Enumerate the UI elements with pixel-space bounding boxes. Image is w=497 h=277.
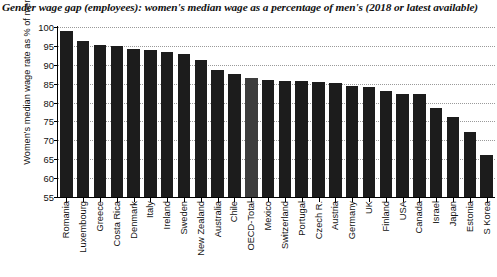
y-tick-label: 55 (44, 192, 54, 203)
x-tick-mark (167, 198, 168, 202)
bar-group[interactable]: Germany (346, 27, 358, 197)
y-tick-label: 75 (44, 116, 54, 127)
x-tick-label: Sweden (179, 201, 189, 235)
y-tick-label: 70 (44, 135, 54, 146)
x-tick-mark (268, 198, 269, 202)
x-tick-label: OECD-Total (246, 201, 256, 251)
bar[interactable] (279, 81, 291, 197)
bar-group[interactable]: Switzerland (279, 27, 291, 197)
x-tick-label: Romania (61, 201, 71, 238)
bar[interactable] (447, 117, 459, 197)
bar-group[interactable]: Australia (211, 27, 223, 197)
y-tick-label: 100 (38, 22, 54, 33)
bar-group[interactable]: New Zealand (195, 27, 207, 197)
x-tick-mark (218, 198, 219, 202)
bar[interactable] (329, 83, 341, 197)
bar[interactable] (380, 91, 392, 197)
x-tick-label: USA (398, 201, 408, 220)
bar[interactable] (262, 80, 274, 197)
x-tick-label: Luxembourg (78, 201, 88, 253)
x-tick-label: Portugal (297, 201, 307, 236)
x-tick-mark (134, 198, 135, 202)
bar[interactable] (413, 94, 425, 197)
bar[interactable] (60, 31, 72, 197)
bar-group[interactable]: USA (396, 27, 408, 197)
bar[interactable] (161, 52, 173, 197)
y-axis-label: Women's median wage rate as % of men's (22, 0, 32, 166)
x-tick-mark (150, 198, 151, 202)
x-tick-label: Germany (347, 201, 357, 239)
x-tick-label: Ireland (162, 201, 172, 229)
plot-area: 556065707580859095100 RomaniaLuxembourgG… (58, 27, 495, 197)
bar-group[interactable]: Chile (228, 27, 240, 197)
bar-series: RomaniaLuxembourgGreeceCosta RicaDenmark… (58, 27, 495, 197)
bar[interactable] (430, 108, 442, 197)
x-tick-mark (352, 198, 353, 202)
x-tick-label: Japan (448, 201, 458, 226)
y-tick-mark (54, 197, 58, 198)
x-tick-mark (436, 198, 437, 202)
bar-group[interactable]: Portugal (295, 27, 307, 197)
bar-group[interactable]: Estonia (464, 27, 476, 197)
bar[interactable] (464, 132, 476, 197)
bar-group[interactable]: Romania (60, 27, 72, 197)
bar-group[interactable]: UK (363, 27, 375, 197)
y-tick-label: 95 (44, 40, 54, 51)
page-title: Gender wage gap (employees): women's med… (2, 1, 497, 13)
x-tick-mark (487, 198, 488, 202)
bar-group[interactable]: Japan (447, 27, 459, 197)
x-tick-mark (234, 198, 235, 202)
x-tick-label: New Zealand (196, 201, 206, 256)
bar[interactable] (178, 54, 190, 197)
bar[interactable] (346, 86, 358, 197)
x-tick-label: Finland (381, 201, 391, 232)
x-tick-label: Israel (431, 201, 441, 224)
bar[interactable] (245, 78, 257, 197)
bar[interactable] (127, 49, 139, 197)
x-tick-mark (251, 198, 252, 202)
bar-group[interactable]: Denmark (127, 27, 139, 197)
x-tick-label: Australia (213, 201, 223, 237)
bar-group[interactable]: Israel (430, 27, 442, 197)
bar-group[interactable]: Italy (144, 27, 156, 197)
x-tick-label: Chile (229, 201, 239, 222)
x-tick-label: Estonia (465, 201, 475, 232)
y-tick-label: 85 (44, 78, 54, 89)
x-tick-mark (184, 198, 185, 202)
bar-group[interactable]: Luxembourg (77, 27, 89, 197)
x-tick-mark (100, 198, 101, 202)
bar[interactable] (228, 74, 240, 197)
x-axis-line (57, 197, 495, 198)
x-tick-mark (285, 198, 286, 202)
bar[interactable] (363, 87, 375, 197)
bar-group[interactable]: S Korea (480, 27, 492, 197)
bar-group[interactable]: Finland (380, 27, 392, 197)
bar[interactable] (295, 81, 307, 197)
bar-group[interactable]: Ireland (161, 27, 173, 197)
x-tick-mark (453, 198, 454, 202)
bar[interactable] (111, 46, 123, 197)
bar-group[interactable]: Sweden (178, 27, 190, 197)
x-tick-mark (66, 198, 67, 202)
y-tick-label: 80 (44, 97, 54, 108)
bar[interactable] (144, 50, 156, 197)
bar[interactable] (94, 45, 106, 197)
x-tick-label: Canada (414, 201, 424, 234)
bar[interactable] (312, 82, 324, 197)
bar-group[interactable]: Canada (413, 27, 425, 197)
bar-group[interactable]: Greece (94, 27, 106, 197)
bar-group[interactable]: OECD-Total (245, 27, 257, 197)
bar-group[interactable]: Czech R. (312, 27, 324, 197)
x-tick-label: Greece (95, 201, 105, 232)
bar[interactable] (480, 155, 492, 197)
bar-group[interactable]: Costa Rica (111, 27, 123, 197)
bar[interactable] (195, 60, 207, 197)
x-tick-mark (302, 198, 303, 202)
bar[interactable] (77, 41, 89, 197)
bar-group[interactable]: Mexico (262, 27, 274, 197)
bar[interactable] (396, 94, 408, 197)
chart-page: Gender wage gap (employees): women's med… (0, 0, 497, 277)
bar[interactable] (211, 70, 223, 197)
x-tick-label: Czech R. (314, 201, 324, 239)
bar-group[interactable]: Austria (329, 27, 341, 197)
